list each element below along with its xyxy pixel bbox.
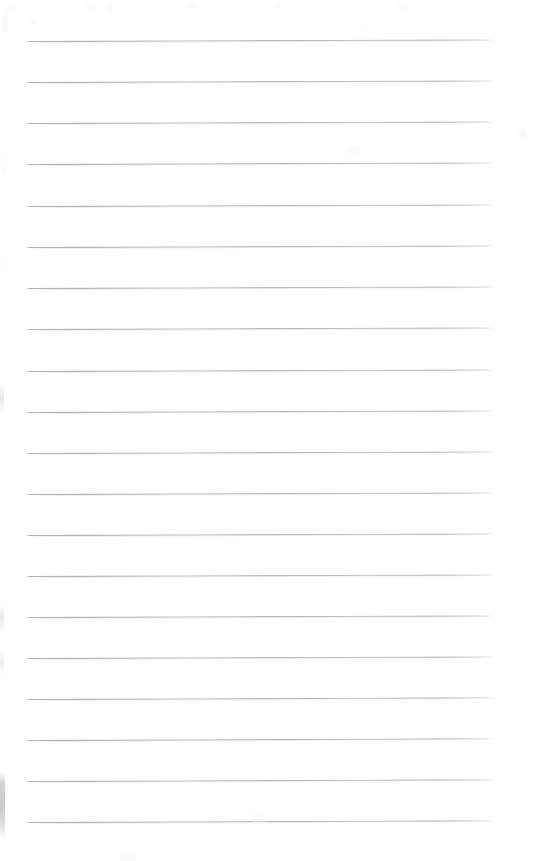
ruled-line xyxy=(26,820,495,823)
ruled-line xyxy=(26,615,495,618)
ruled-line xyxy=(26,779,495,782)
ruled-line xyxy=(26,80,495,83)
ruled-line xyxy=(26,370,495,372)
ruled-line xyxy=(26,122,495,124)
ruled-line xyxy=(26,656,495,659)
ruled-line xyxy=(26,574,495,577)
ruled-line xyxy=(26,534,495,536)
ruled-line xyxy=(26,452,495,454)
ruled-line xyxy=(26,697,495,700)
ruled-line xyxy=(26,246,495,248)
scanned-page: Blank Ruled Notepad Page xyxy=(0,0,534,861)
ruled-line xyxy=(26,493,495,495)
ruled-line xyxy=(26,287,495,289)
ruled-line xyxy=(26,328,495,330)
ruled-line xyxy=(26,411,495,413)
ruled-lines-group xyxy=(0,0,534,861)
ruled-line xyxy=(26,738,495,741)
ruled-line xyxy=(26,205,495,207)
ruled-line xyxy=(26,39,495,42)
ruled-line xyxy=(26,163,495,165)
